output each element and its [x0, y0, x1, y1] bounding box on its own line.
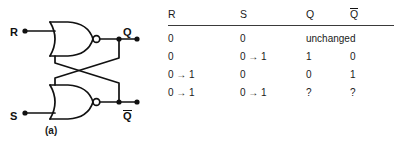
q-bar-junction-dot [116, 99, 121, 104]
cell-r: 0 → 1 [168, 82, 240, 100]
feedback-qbar-to-top-gate [55, 56, 119, 102]
reset-input-label: R [10, 27, 18, 38]
panel-b-truth-table: R S Q Q 0 0 unchanged 0 0 → 1 1 0 [160, 0, 399, 146]
set-input-label: S [10, 111, 17, 122]
nor-gate-bottom-body [50, 85, 93, 119]
panel-a-circuit: R S Q Q (a) [0, 0, 160, 146]
nor-gate-top-back [50, 22, 55, 56]
cell-r: 0 → 1 [168, 64, 240, 82]
cell-q-unchanged: unchanged [306, 26, 394, 46]
cell-q: 1 [306, 46, 350, 64]
column-header-s: S [240, 8, 306, 26]
q-junction-dot [116, 36, 121, 41]
column-header-q-bar: Q [350, 8, 394, 26]
cell-q: ? [306, 82, 350, 100]
cell-s: 0 [240, 26, 306, 46]
cell-q-bar: 1 [350, 64, 394, 82]
feedback-q-to-bottom-gate [55, 39, 119, 85]
reset-terminal-dot [22, 28, 27, 33]
truth-table-header-row: R S Q Q [168, 8, 394, 26]
set-terminal-dot [22, 110, 27, 115]
q-bar-output-label: Q [123, 110, 132, 123]
cell-q-bar: 0 [350, 46, 394, 64]
sr-latch-schematic [0, 0, 160, 146]
q-bar-output-label-text: Q [123, 110, 132, 123]
column-header-r: R [168, 8, 240, 26]
column-header-q-bar-text: Q [350, 8, 358, 20]
cell-r: 0 [168, 26, 240, 46]
column-header-q: Q [306, 8, 350, 26]
cell-q-bar: ? [350, 82, 394, 100]
nor-gate-top-body [50, 22, 93, 56]
truth-table: R S Q Q 0 0 unchanged 0 0 → 1 1 0 [168, 8, 394, 100]
nor-gate-bottom-bubble [93, 99, 100, 106]
table-row: 0 → 1 0 → 1 ? ? [168, 82, 394, 100]
caption-panel-a: (a) [45, 125, 57, 136]
cell-s: 0 → 1 [240, 82, 306, 100]
cell-s: 0 → 1 [240, 46, 306, 64]
q-output-label: Q [123, 27, 132, 38]
truth-table-body: 0 0 unchanged 0 0 → 1 1 0 0 → 1 0 0 1 [168, 26, 394, 100]
nor-gate-bottom-back [50, 85, 55, 119]
cell-r: 0 [168, 46, 240, 64]
cell-s: 0 [240, 64, 306, 82]
table-row: 0 → 1 0 0 1 [168, 64, 394, 82]
table-row: 0 0 → 1 1 0 [168, 46, 394, 64]
table-row: 0 0 unchanged [168, 26, 394, 46]
nor-gate-top-bubble [93, 36, 100, 43]
truth-table-head: R S Q Q [168, 8, 394, 26]
figure-sr-latch: R S Q Q (a) R S Q Q 0 0 unchanged [0, 0, 399, 146]
q-bar-terminal-dot [134, 99, 139, 104]
cell-q: 0 [306, 64, 350, 82]
q-terminal-dot [134, 36, 139, 41]
